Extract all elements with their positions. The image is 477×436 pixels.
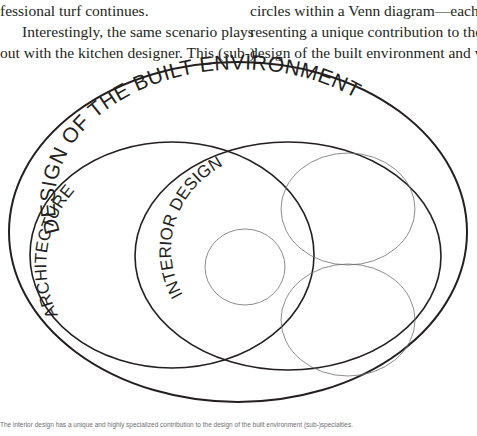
text-line: Interestingly, the same scenario plays [0,21,228,42]
lower-right-circle [281,264,415,376]
text-line: resenting a unique contribution to the [250,21,477,42]
caption-text: The interior design has a unique and hig… [0,421,353,428]
label-architecture: ARCHITECTURE [31,181,78,321]
venn-diagram: DESIGN OF THE BUILT ENVIRONMENT ARCHITEC… [0,50,477,410]
text-line: fessional turf continues. [0,0,228,21]
label-interior-design: INTERIOR DESIGN [156,152,225,302]
inner-small-circle [205,229,285,305]
figure-caption: The interior design has a unique and hig… [0,421,477,428]
text-line: circles within a Venn diagram—each rep- [250,0,477,21]
interior-design-ellipse [135,142,441,370]
